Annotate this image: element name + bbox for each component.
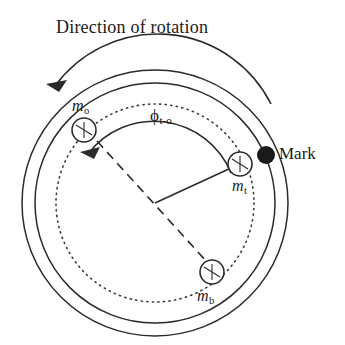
- label-mass-bottom-symbol: m: [197, 287, 209, 304]
- radius-line-to-top-mass: [155, 168, 231, 203]
- angle-arc-head: [80, 147, 100, 159]
- dashed-diameter-line: [97, 141, 207, 262]
- angle-arc: [88, 121, 231, 173]
- label-mass-top: mt: [232, 178, 246, 194]
- label-mass-outer-symbol: m: [72, 97, 84, 114]
- rotation-diagram-figure: Direction of rotation mo mt mb ϕt-o Mark: [0, 0, 345, 345]
- mark-dot: [257, 146, 275, 164]
- label-mass-bottom: mb: [197, 288, 214, 304]
- mass-marker-m-b: [200, 260, 224, 284]
- rotation-arrow-head: [46, 80, 67, 92]
- label-angle-symbol: ϕ: [150, 106, 159, 125]
- label-mass-top-subscript: t: [244, 185, 247, 196]
- figure-title: Direction of rotation: [56, 18, 208, 36]
- label-angle-subscript: t-o: [159, 114, 171, 126]
- mass-marker-m-t: [228, 152, 252, 176]
- diagram-canvas: [0, 0, 345, 345]
- label-angle: ϕt-o: [150, 107, 171, 124]
- label-mark: Mark: [279, 145, 316, 162]
- label-mass-top-symbol: m: [232, 177, 244, 194]
- label-mass-outer: mo: [72, 98, 89, 114]
- label-mass-bottom-subscript: b: [209, 295, 214, 306]
- label-mass-outer-subscript: o: [84, 105, 89, 116]
- rotation-arrow-arc: [55, 34, 271, 104]
- mass-marker-m-o: [72, 118, 96, 142]
